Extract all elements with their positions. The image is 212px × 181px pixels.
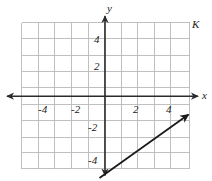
graph-figure: -4 -2 2 4 4 2 -2 -4 y x K [0, 0, 212, 181]
x-tick-label-neg2: -2 [71, 104, 80, 115]
y-tick-label-neg4: -4 [88, 155, 97, 166]
y-tick-label-pos2: 2 [94, 61, 100, 72]
x-tick-label-pos2: 2 [133, 104, 139, 115]
y-tick-label-pos4: 4 [94, 34, 100, 45]
x-tick-label-pos4: 4 [166, 104, 172, 115]
y-axis-label: y [107, 3, 112, 14]
line-label-k: K [192, 19, 199, 30]
y-tick-label-neg2: -2 [88, 122, 97, 133]
coordinate-plane [0, 0, 212, 181]
x-tick-label-neg4: -4 [38, 104, 47, 115]
x-axis-label: x [202, 90, 207, 101]
